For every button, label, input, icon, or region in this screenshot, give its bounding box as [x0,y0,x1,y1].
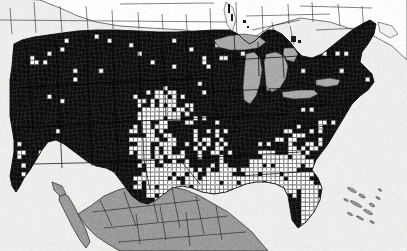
map-canvas [0,0,407,251]
county-distribution-map: County-level distribution map of the con… [0,0,407,251]
